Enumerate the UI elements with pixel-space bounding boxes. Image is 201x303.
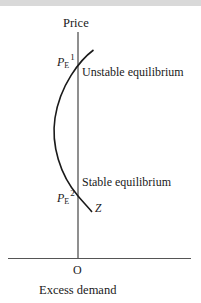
pe2-label: PE2 <box>57 189 75 206</box>
origin-label: O <box>73 264 82 276</box>
pe1-superscript: 1 <box>70 52 75 62</box>
excess-demand-axis-label: Excess demand <box>39 284 116 297</box>
pe1-label: PE1 <box>57 53 75 70</box>
pe2-superscript: 2 <box>70 188 75 198</box>
pe2-subscript: E <box>64 197 69 206</box>
price-axis-label: Price <box>63 17 89 30</box>
pe1-subscript: E <box>64 61 69 70</box>
curve-z-label: Z <box>95 203 101 215</box>
unstable-equilibrium-label: Unstable equilibrium <box>82 66 184 78</box>
stable-equilibrium-label: Stable equilibrium <box>82 176 171 188</box>
excess-demand-diagram <box>0 0 201 303</box>
